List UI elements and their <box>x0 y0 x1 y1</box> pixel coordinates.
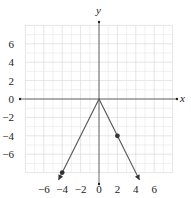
svg-text:−2: −2 <box>2 111 14 123</box>
svg-text:4: 4 <box>9 56 15 68</box>
svg-text:6: 6 <box>9 38 15 50</box>
x-axis-label: x <box>179 92 185 104</box>
svg-text:4: 4 <box>133 183 139 195</box>
svg-text:6: 6 <box>151 183 157 195</box>
svg-text:0: 0 <box>9 93 15 105</box>
svg-text:0: 0 <box>96 183 102 195</box>
svg-text:−6: −6 <box>2 148 14 160</box>
svg-text:−4: −4 <box>56 183 68 195</box>
svg-text:−6: −6 <box>38 183 50 195</box>
graph: −6−4−202466420−2−4−6 x y <box>0 0 191 198</box>
svg-text:2: 2 <box>115 183 121 195</box>
svg-text:−4: −4 <box>2 130 14 142</box>
svg-text:2: 2 <box>9 75 15 87</box>
svg-text:−2: −2 <box>75 183 87 195</box>
y-axis-label: y <box>95 4 101 16</box>
